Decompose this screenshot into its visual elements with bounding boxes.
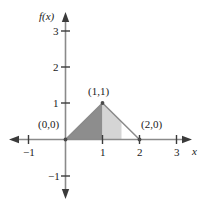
x-tick-label-two: 2 xyxy=(137,147,143,158)
point-label-right-zero: (2,0) xyxy=(141,119,162,130)
y-tick-label-one: 1 xyxy=(53,98,59,109)
light-shaded-region xyxy=(103,103,122,140)
function-graph-figure: f(x) x 3 2 1 −1 −1 1 2 3 (0,0) (1,1) (2,… xyxy=(0,0,206,209)
y-axis-up-arrowhead xyxy=(62,12,69,22)
x-axis-right-arrowhead xyxy=(182,136,192,143)
y-axis-label: f(x) xyxy=(39,11,54,22)
point-marker-peak xyxy=(101,101,105,105)
point-marker-origin xyxy=(64,138,68,142)
point-label-peak: (1,1) xyxy=(88,86,109,97)
plot-canvas xyxy=(0,0,206,209)
x-axis-label: x xyxy=(192,146,197,157)
y-tick-label-three: 3 xyxy=(53,26,59,37)
y-tick-label-neg-one: −1 xyxy=(48,171,60,182)
y-axis-down-arrowhead xyxy=(62,189,69,199)
point-marker-right-zero xyxy=(138,138,142,142)
point-label-origin: (0,0) xyxy=(38,119,59,130)
y-tick-label-two: 2 xyxy=(53,62,59,73)
x-tick-label-neg-one: −1 xyxy=(23,147,35,158)
x-tick-label-three: 3 xyxy=(174,147,180,158)
x-axis-left-arrowhead xyxy=(9,136,19,143)
x-tick-label-one: 1 xyxy=(100,147,106,158)
